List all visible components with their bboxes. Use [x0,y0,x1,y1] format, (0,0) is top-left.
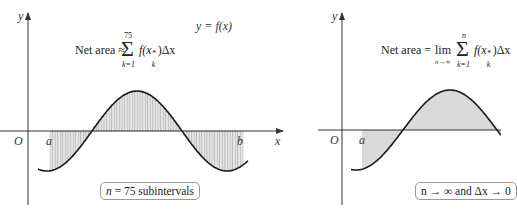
lim-operator: lim [435,43,451,58]
right-a-label: a [359,133,365,148]
summand: f(x*k)Δx [139,43,175,58]
formula-prefix: Net area ≈ [75,43,125,58]
right-y-label: y [332,9,337,24]
right-limit-note: n → ∞ and Δx → 0 [415,182,517,200]
left-x-label: x [275,134,280,149]
left-a-label: a [46,134,52,149]
left-b-label: b [237,134,243,149]
right-net-area-formula: Net area = lim n→∞ n Σ k=1 f(x*k)Δx [381,33,506,73]
left-net-area-formula: Net area ≈ 75 Σ k=1 f(x*k)Δx [75,33,185,73]
summand: f(x*k)Δx [474,43,510,58]
sigma-symbol: Σ [121,38,134,60]
curve-label: y = f(x) [196,19,232,34]
right-origin-label: O [330,133,339,148]
sigma-symbol: Σ [456,38,469,60]
sum-lower-limit: k=1 [122,61,135,69]
left-y-label: y [18,9,23,24]
left-origin-label: O [14,134,23,149]
formula-prefix: Net area = [381,43,431,58]
lim-subscript: n→∞ [435,58,451,66]
left-subinterval-note: n = 75 subintervals [100,182,200,200]
sum-lower-limit: k=1 [457,61,470,69]
